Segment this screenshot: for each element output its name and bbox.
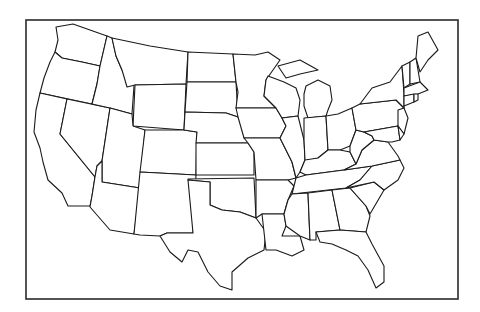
state-co xyxy=(140,130,197,175)
state-vt xyxy=(402,62,410,88)
us-outline-map xyxy=(0,0,480,312)
map-canvas xyxy=(0,0,480,312)
state-ms xyxy=(284,193,310,240)
state-ny xyxy=(360,66,404,108)
state-me xyxy=(416,32,438,72)
state-nm xyxy=(134,172,196,236)
state-ri xyxy=(414,94,418,102)
state-ks xyxy=(196,143,254,175)
state-fl xyxy=(316,230,384,288)
state-nd xyxy=(187,52,236,82)
state-boundaries xyxy=(34,24,438,290)
state-wy xyxy=(133,84,186,130)
state-ct xyxy=(404,94,414,106)
